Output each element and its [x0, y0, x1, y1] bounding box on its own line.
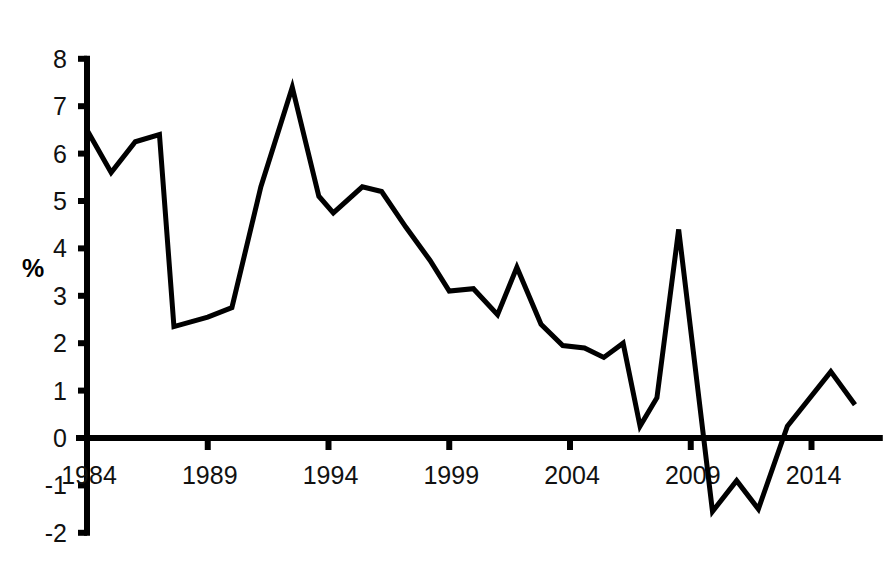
y-axis-tick-label: -2 [45, 519, 67, 547]
y-axis-tick-label: 2 [53, 329, 67, 357]
y-axis-tick-label: 7 [53, 92, 67, 120]
y-axis-tick-label: 3 [53, 282, 67, 310]
y-axis-tick-label: 6 [53, 140, 67, 168]
x-axis-tick-label: 1984 [61, 461, 117, 489]
tick-labels-group: 876543210-1-2198419891994199920042009201… [45, 45, 842, 547]
y-axis-tick-label: 0 [53, 424, 67, 452]
y-axis-tick-label: 5 [53, 187, 67, 215]
y-axis-tick-label: 4 [53, 234, 67, 262]
x-axis-tick-label: 1989 [182, 461, 238, 489]
y-axis-title: % [22, 254, 44, 282]
x-axis-tick-label: 2004 [544, 461, 600, 489]
chart-container: 876543210-1-2198419891994199920042009201… [0, 0, 893, 573]
data-line [87, 87, 855, 511]
x-axis-tick-label: 1994 [303, 461, 359, 489]
x-axis-tick-label: 2009 [665, 461, 721, 489]
line-chart-plot: 876543210-1-2198419891994199920042009201… [0, 0, 893, 573]
x-axis-tick-label: 2014 [786, 461, 842, 489]
y-axis-tick-label: 8 [53, 45, 67, 73]
data-series-group [87, 87, 855, 511]
y-axis-tick-label: 1 [53, 377, 67, 405]
x-axis-tick-label: 1999 [423, 461, 479, 489]
